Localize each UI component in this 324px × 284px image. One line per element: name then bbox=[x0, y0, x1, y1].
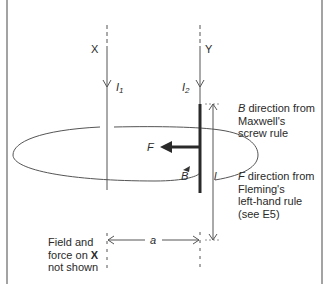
f-rule-line: direction from bbox=[245, 170, 315, 182]
current-i2-label: I2 bbox=[182, 81, 190, 97]
field-loop bbox=[13, 127, 258, 181]
current-i2-subscript: 2 bbox=[185, 86, 189, 95]
wire-y-label: Y bbox=[205, 43, 212, 55]
length-label: l bbox=[214, 170, 216, 182]
b-rule-note: B direction from Maxwell's screw rule bbox=[238, 102, 315, 140]
f-rule-line: Fleming's bbox=[238, 183, 314, 196]
wire-x bbox=[103, 25, 111, 268]
force-label: F bbox=[147, 141, 154, 153]
x-not-shown-note: Field and force on X not shown bbox=[48, 236, 98, 274]
wire-x-label: X bbox=[91, 43, 98, 55]
x-note-bold-x: X bbox=[91, 249, 98, 261]
separation-label: a bbox=[150, 234, 156, 246]
length-dimension bbox=[205, 104, 221, 240]
b-rule-line: screw rule bbox=[238, 127, 315, 140]
f-rule-symbol: F bbox=[238, 170, 245, 182]
f-rule-line: left-hand rule bbox=[238, 195, 314, 208]
current-i1-subscript: 1 bbox=[119, 86, 123, 95]
force-arrow bbox=[160, 141, 199, 153]
x-note-line: not shown bbox=[48, 261, 98, 274]
f-rule-note: F direction from Fleming's left-hand rul… bbox=[238, 170, 314, 220]
b-rule-line: direction from bbox=[245, 102, 315, 114]
f-rule-line: (see E5) bbox=[238, 208, 314, 221]
force-arrowhead-icon bbox=[160, 141, 172, 153]
b-rule-line: Maxwell's bbox=[238, 115, 315, 128]
current-i1-label: I1 bbox=[116, 81, 124, 97]
field-label: B bbox=[181, 170, 188, 182]
x-note-line: Field and bbox=[48, 236, 98, 249]
x-note-line: force on bbox=[48, 249, 91, 261]
